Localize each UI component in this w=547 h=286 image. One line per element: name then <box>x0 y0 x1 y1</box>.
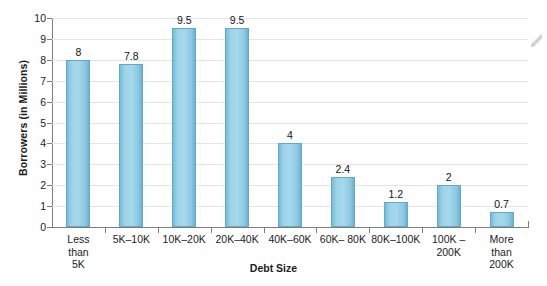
x-axis-category-label: 60K– 80K <box>314 233 371 246</box>
bar-value-label: 7.8 <box>106 51 156 62</box>
y-axis-tick-label: 10 <box>16 13 46 24</box>
y-axis-tick-labels: 012345678910 <box>0 0 46 286</box>
y-axis-tick-mark <box>47 164 52 165</box>
x-axis-title: Debt Size <box>0 262 547 274</box>
y-axis-tick-label: 7 <box>16 76 46 87</box>
y-axis-tick-mark <box>47 18 52 19</box>
x-axis-line <box>52 227 529 228</box>
x-axis-category-label: 100K – 200K <box>420 233 477 258</box>
x-axis-tick-mark <box>475 227 476 233</box>
x-axis-tick-mark <box>369 227 370 233</box>
y-axis-tick-label: 5 <box>16 118 46 129</box>
bar-value-label: 2 <box>424 172 474 183</box>
x-axis-category-label: 10K–20K <box>156 233 213 246</box>
x-axis-category-label: 5K–10K <box>103 233 160 246</box>
y-axis-tick-mark <box>47 206 52 207</box>
bar <box>437 185 461 227</box>
chart-figure: Borrowers (in Millions) 012345678910 87.… <box>0 0 547 286</box>
x-axis-category-label: 40K–60K <box>262 233 319 246</box>
bar-value-label: 0.7 <box>477 199 527 210</box>
bar <box>172 28 196 227</box>
bar-value-label: 8 <box>53 47 103 58</box>
x-axis-category-label: 20K–40K <box>209 233 266 246</box>
y-axis-tick-label: 1 <box>16 201 46 212</box>
y-axis-tick-mark <box>47 185 52 186</box>
y-axis-tick-label: 9 <box>16 34 46 45</box>
y-axis-tick-mark <box>47 39 52 40</box>
x-axis-tick-mark <box>211 227 212 233</box>
x-axis-tick-mark <box>264 227 265 233</box>
bar-value-label: 4 <box>265 130 315 141</box>
gridline <box>52 18 528 19</box>
y-axis-tick-label: 6 <box>16 97 46 108</box>
bar-value-label: 9.5 <box>159 15 209 26</box>
y-axis-tick-label: 8 <box>16 55 46 66</box>
y-axis-tick-mark <box>47 143 52 144</box>
y-axis-tick-mark <box>47 102 52 103</box>
x-axis-tick-mark <box>105 227 106 233</box>
bar <box>119 64 143 227</box>
x-axis-category-label: 80K–100K <box>367 233 424 246</box>
bar <box>225 28 249 227</box>
y-axis-tick-label: 0 <box>16 222 46 233</box>
scan-artifact <box>531 33 542 47</box>
y-axis-tick-label: 3 <box>16 159 46 170</box>
y-axis-tick-mark <box>47 123 52 124</box>
x-axis-end-cap <box>528 221 529 228</box>
bar-value-label: 1.2 <box>371 189 421 200</box>
y-axis-tick-mark <box>47 60 52 61</box>
bar-value-label: 2.4 <box>318 164 368 175</box>
x-axis-tick-mark <box>158 227 159 233</box>
gridline <box>52 39 528 40</box>
x-axis-tick-mark <box>316 227 317 233</box>
y-axis-tick-mark <box>47 81 52 82</box>
bar <box>490 212 514 227</box>
y-axis-tick-label: 4 <box>16 138 46 149</box>
bar <box>66 60 90 227</box>
bar <box>384 202 408 227</box>
y-axis-tick-label: 2 <box>16 180 46 191</box>
y-axis-tick-mark <box>47 227 52 228</box>
bar <box>331 177 355 227</box>
bar <box>278 143 302 227</box>
x-axis-tick-mark <box>422 227 423 233</box>
bar-value-label: 9.5 <box>212 15 262 26</box>
